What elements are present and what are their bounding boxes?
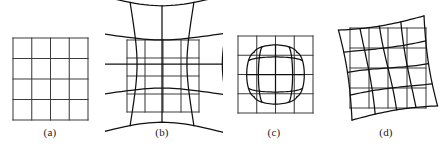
reference-grid-b <box>127 40 199 112</box>
caption-c: (c) <box>244 126 304 138</box>
undistorted-grid <box>13 38 88 120</box>
caption-b: (b) <box>132 126 192 138</box>
barrel-grid <box>247 45 305 104</box>
pincushion-grid <box>105 0 223 136</box>
distortion-figure: (a) (b) (c) (d) <box>0 0 443 153</box>
caption-a: (a) <box>20 126 80 138</box>
caption-d: (d) <box>356 126 416 138</box>
